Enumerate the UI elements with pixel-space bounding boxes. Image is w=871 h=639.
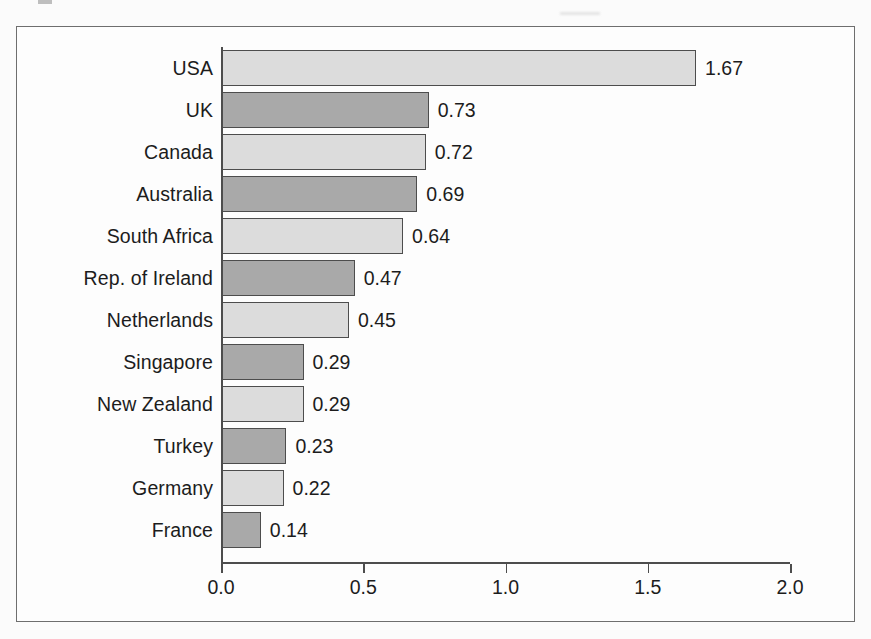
bar-chart: USA1.67UK0.73Canada0.72Australia0.69Sout… [0,0,871,639]
x-axis-tick [221,564,223,573]
x-axis-tick-label: 1.5 [634,576,661,599]
bar-category-label: Singapore [13,341,213,383]
bar-row: Rep. of Ireland0.47 [0,257,871,299]
bar-category-label: Germany [13,467,213,509]
x-axis-tick-label: 2.0 [776,576,803,599]
x-axis-tick-label: 0.5 [350,576,377,599]
bar-category-label: New Zealand [13,383,213,425]
bar-category-label: USA [13,47,213,89]
x-axis-tick [506,564,508,573]
bar-value-label: 0.29 [313,383,351,425]
y-axis-line [221,47,223,562]
bar-value-label: 0.64 [412,215,450,257]
bar-category-label: UK [13,89,213,131]
bar-row: Germany0.22 [0,467,871,509]
x-axis-tick-label: 0.0 [207,576,234,599]
bar-category-label: Canada [13,131,213,173]
bar-row: South Africa0.64 [0,215,871,257]
x-axis-tick-label: 1.0 [492,576,519,599]
bar-value-label: 0.22 [293,467,331,509]
bar-row: France0.14 [0,509,871,551]
x-axis-tick [790,564,792,573]
bar [221,218,403,254]
bar [221,260,355,296]
bar [221,428,286,464]
bar-value-label: 0.73 [438,89,476,131]
bar [221,386,304,422]
bar [221,50,696,86]
bar-row: New Zealand0.29 [0,383,871,425]
bar [221,344,304,380]
x-axis-tick [363,564,365,573]
bar-value-label: 0.47 [364,257,402,299]
bar-row: Australia0.69 [0,173,871,215]
bar [221,92,429,128]
bar-row: Netherlands0.45 [0,299,871,341]
x-axis-tick [648,564,650,573]
bar-value-label: 0.45 [358,299,396,341]
bar-value-label: 0.14 [270,509,308,551]
bar-value-label: 0.72 [435,131,473,173]
bar [221,302,349,338]
bar-category-label: France [13,509,213,551]
bar-category-label: Netherlands [13,299,213,341]
bar-category-label: Rep. of Ireland [13,257,213,299]
bar-row: USA1.67 [0,47,871,89]
bar [221,134,426,170]
bar-row: Canada0.72 [0,131,871,173]
bar-row: Turkey0.23 [0,425,871,467]
bar-row: Singapore0.29 [0,341,871,383]
bar [221,470,284,506]
bar [221,512,261,548]
bar-value-label: 1.67 [705,47,743,89]
bar-category-label: Australia [13,173,213,215]
bar-category-label: South Africa [13,215,213,257]
bar-category-label: Turkey [13,425,213,467]
bar-value-label: 0.69 [426,173,464,215]
bar [221,176,417,212]
bar-value-label: 0.23 [295,425,333,467]
bar-row: UK0.73 [0,89,871,131]
bar-value-label: 0.29 [313,341,351,383]
